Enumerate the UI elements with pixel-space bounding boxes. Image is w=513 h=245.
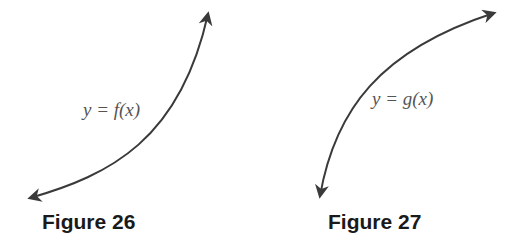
label-g: y = g(x)	[372, 88, 433, 110]
figures-canvas	[0, 0, 513, 245]
caption-figure-26: Figure 26	[42, 210, 135, 234]
caption-figure-27: Figure 27	[328, 210, 421, 234]
label-f: y = f(x)	[83, 99, 140, 121]
